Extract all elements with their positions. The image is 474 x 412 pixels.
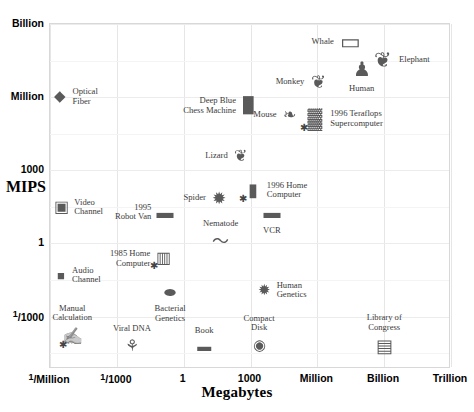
y-axis-title: MIPS (6, 178, 46, 196)
data-point-marker-icon: ▤ (376, 337, 393, 355)
gridline-vertical (451, 24, 452, 367)
y-axis-tick-1-1000: 1/1000 (13, 309, 44, 322)
data-point-label: Human (349, 84, 374, 93)
x-axis-tick-1000: 1000 (238, 372, 261, 384)
data-point-label: 1996 Teraflops Supercomputer (330, 109, 383, 128)
data-point-label: Library of Congress (367, 313, 402, 332)
data-point-label: Whale (311, 37, 333, 46)
data-point-label: Viral DNA (113, 323, 151, 332)
data-point-marker-icon: 〜 (212, 233, 229, 250)
gridline-horizontal (50, 24, 449, 25)
moravec-mips-vs-megabytes-chart: BillionMillion100011/1000 1/Million1/100… (0, 0, 474, 412)
data-point-marker-icon: ◆ (54, 89, 66, 104)
data-point-marker-icon: ▣ (54, 199, 69, 215)
data-point-label: Lizard (205, 151, 227, 160)
data-point-marker-icon: ▓ (308, 108, 323, 128)
data-point-label: Audio Channel (72, 265, 101, 284)
data-point-marker-icon: ⚘ (125, 338, 139, 354)
data-point-label: Mouse (253, 110, 276, 119)
data-point-marker-icon: ▬ (197, 340, 211, 354)
data-point-label: Book (195, 326, 214, 335)
data-point-label: Elephant (399, 55, 430, 64)
asterisk-marker-icon: ✱ (239, 194, 247, 204)
x-axis-tick-billion: Billion (367, 372, 399, 384)
gridline-vertical (50, 24, 51, 367)
data-point-label: 1985 Home Computer (110, 249, 150, 268)
data-point-marker-icon: ■ (57, 268, 65, 281)
data-point-label: Bacterial Genetics (155, 304, 186, 323)
data-point-marker-icon: ▬ (263, 204, 280, 221)
gridline-horizontal-minor (50, 280, 449, 281)
data-point-marker-icon: ❧ (283, 107, 296, 123)
data-point-label: Spider (183, 193, 205, 202)
y-axis-tick-1: 1 (38, 236, 44, 248)
asterisk-marker-icon: ✱ (150, 261, 158, 271)
x-axis-title: Megabytes (0, 384, 474, 401)
data-point-marker-icon: ▬ (156, 204, 173, 221)
data-point-label: Manual Calculation (52, 304, 92, 323)
y-axis-tick-billion: Billion (12, 17, 44, 29)
data-point-marker-icon: ◉ (253, 338, 266, 353)
data-point-label: 1996 Home Computer (267, 181, 307, 200)
gridline-horizontal-minor (50, 134, 449, 135)
asterisk-marker-icon: ✱ (300, 123, 308, 133)
data-point-label: 1995 Robot Van (115, 203, 151, 222)
x-axis-tick-million: Million (300, 372, 333, 384)
data-point-label: Video Channel (74, 197, 103, 216)
data-point-label: Compact Disk (244, 314, 275, 333)
data-point-label: Deep Blue Chess Machine (183, 96, 236, 115)
gridline-horizontal-minor (50, 207, 449, 208)
data-point-marker-icon: ▮ (248, 181, 258, 199)
data-point-marker-icon: ♟ (353, 59, 371, 79)
data-point-label: Monkey (276, 77, 305, 86)
data-point-marker-icon: ❦ (234, 148, 247, 164)
data-point-marker-icon: ▭ (340, 31, 361, 53)
x-axis-tick-trillion: Trillion (433, 372, 467, 384)
data-point-marker-icon: ✹ (258, 283, 271, 298)
x-axis-tick-1: 1 (180, 372, 186, 384)
y-axis-tick-1000: 1000 (21, 163, 44, 175)
data-point-marker-icon: ❦ (374, 49, 392, 70)
data-point-label: Nematode (203, 218, 238, 227)
y-axis-tick-million: Million (11, 90, 44, 102)
gridline-horizontal (50, 243, 449, 244)
gridline-vertical (117, 24, 118, 367)
data-point-label: VCR (263, 226, 281, 235)
gridline-horizontal (50, 170, 449, 171)
data-point-label: Human Genetics (277, 281, 307, 300)
asterisk-marker-icon: ✱ (59, 340, 67, 350)
data-point-marker-icon: █ (243, 98, 254, 113)
data-point-marker-icon: ❦ (311, 73, 326, 91)
data-point-label: Optical Fiber (73, 87, 98, 106)
data-point-marker-icon: ✹ (212, 189, 226, 206)
data-point-marker-icon: ⬬ (164, 286, 176, 300)
